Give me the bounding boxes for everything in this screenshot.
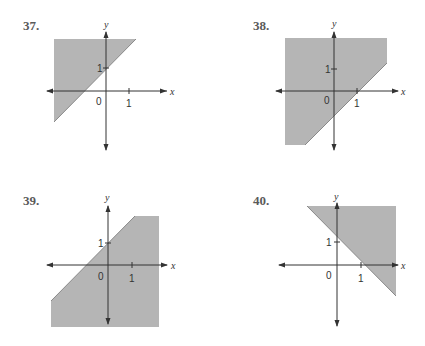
origin-label: 0 <box>324 95 330 106</box>
graph-40: 40. y x 0 1 1 <box>212 173 424 346</box>
x-tick-label: 1 <box>126 98 132 109</box>
x-axis-label: x <box>400 86 406 97</box>
x-axis-label: x <box>170 260 176 271</box>
y-tick-label: 1 <box>326 237 332 248</box>
y-axis-label: y <box>103 19 109 30</box>
y-axis-arrow-down-icon <box>332 144 337 151</box>
origin-label: 0 <box>98 271 104 282</box>
x-axis-arrow-right-icon <box>392 89 399 94</box>
x-axis-arrow-left-icon <box>275 89 282 94</box>
x-tick-label: 1 <box>354 98 360 109</box>
x-axis-label: x <box>169 86 175 97</box>
y-tick-label: 1 <box>97 63 103 74</box>
graph-38: 38. y x 0 1 1 <box>212 0 424 173</box>
y-axis-label: y <box>331 18 337 29</box>
y-axis-arrow-up-icon <box>332 31 337 38</box>
origin-label: 0 <box>96 96 102 107</box>
graph-39-plot: y x 0 1 1 <box>0 173 212 346</box>
x-tick-label: 1 <box>129 273 135 284</box>
y-axis-arrow-up-icon <box>335 202 340 209</box>
y-axis-label: y <box>333 191 339 202</box>
x-axis-arrow-right-icon <box>160 89 167 94</box>
graph-39: 39. y x 0 1 1 <box>0 173 212 346</box>
x-tick-label: 1 <box>358 273 364 284</box>
y-axis-arrow-up-icon <box>104 31 109 38</box>
y-axis-arrow-down-icon <box>335 320 340 327</box>
y-tick-label: 1 <box>98 238 104 249</box>
origin-label: 0 <box>326 270 332 281</box>
x-axis-arrow-left-icon <box>46 89 53 94</box>
x-axis-arrow-right-icon <box>161 263 168 268</box>
y-axis-arrow-up-icon <box>106 205 111 212</box>
graph-40-plot: y x 0 1 1 <box>212 173 424 346</box>
y-tick-label: 1 <box>325 64 331 75</box>
graph-37-plot: y x 0 1 1 <box>0 0 212 173</box>
graph-37: 37. y x 0 1 1 <box>0 0 212 173</box>
x-axis-arrow-left-icon <box>46 263 53 268</box>
x-axis-arrow-left-icon <box>278 263 285 268</box>
shaded-region <box>51 216 159 327</box>
y-axis-label: y <box>104 192 110 203</box>
graph-38-plot: y x 0 1 1 <box>212 0 424 173</box>
y-axis-arrow-down-icon <box>104 144 109 151</box>
x-axis-label: x <box>400 260 406 271</box>
